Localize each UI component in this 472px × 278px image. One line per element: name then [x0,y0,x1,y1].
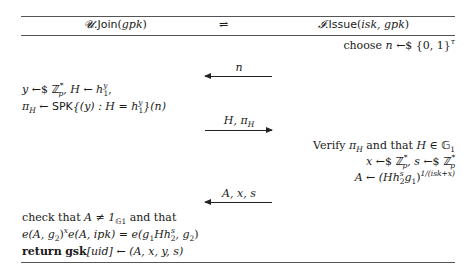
user-sample-y: y ←$ ℤ*p, H ← hy1, [22,83,112,97]
user-pairing-check: e(A, g2)xe(A, ipk) = e(g1Hhs2, g2) [22,228,199,242]
bottom-rule [21,262,455,263]
issuer-sample-x-s: x ←$ ℤ*p, s ←$ ℤ*p [366,155,455,169]
issuer-compute-A: A ← (Hhs2g1)1/(isk+x) [355,171,455,185]
user-check-A: check that A ≠ 1𝔾1 and that [22,211,176,225]
message-label-H-piH: H, πH [199,114,279,127]
header-rule [21,35,455,36]
issuer-verify-proof: Verify πH and that H ∈ 𝔾1 [313,139,455,153]
top-rule [21,16,455,17]
header-exchange-icon: ⇌ [219,18,228,32]
arrow-right-icon [205,130,272,131]
issuer-choose-nonce: choose n ←$ {0, 1}τ [343,39,455,53]
arrow-left-icon [205,202,272,203]
message-label-n: n [199,61,279,74]
header-user-join: 𝓤.Join(gpk) [84,18,147,32]
message-label-A-x-s: A, x, s [199,187,279,200]
user-return-gsk: return gsk[uid] ← (A, x, y, s) [22,245,183,259]
arrow-left-icon [205,76,272,77]
user-spk-proof: πH ← SPK{(y) : H = hy1}(n) [22,100,166,114]
header-issuer-issue: 𝓘.Issue(isk, gpk) [318,18,409,32]
